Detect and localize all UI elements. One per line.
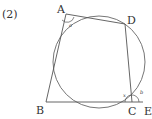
- quadrilateral-ABCD: [46, 14, 132, 102]
- label-B: B: [36, 104, 44, 117]
- problem-number: (2): [2, 8, 18, 21]
- label-D: D: [127, 14, 136, 27]
- label-A: A: [56, 3, 66, 16]
- label-C: C: [128, 105, 136, 118]
- inscribed-quadrilateral-diagram: (2) A D B C E a x b: [0, 0, 152, 119]
- angle-label-b: b: [140, 89, 143, 95]
- angle-label-a: a: [69, 22, 72, 28]
- label-E: E: [144, 105, 152, 118]
- angle-arc-a: [62, 17, 74, 22]
- angle-label-x: x: [123, 92, 126, 98]
